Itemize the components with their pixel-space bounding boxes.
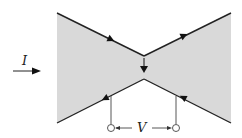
voltage-arrow-left-icon xyxy=(115,126,120,130)
voltage-arrow-right-icon xyxy=(167,126,172,130)
current-arrow-icon xyxy=(32,68,41,75)
current-label: I xyxy=(21,53,28,68)
right-terminal xyxy=(173,125,180,132)
left-terminal xyxy=(108,125,115,132)
constriction-diagram: I V xyxy=(0,0,242,138)
voltage-label: V xyxy=(137,120,148,135)
